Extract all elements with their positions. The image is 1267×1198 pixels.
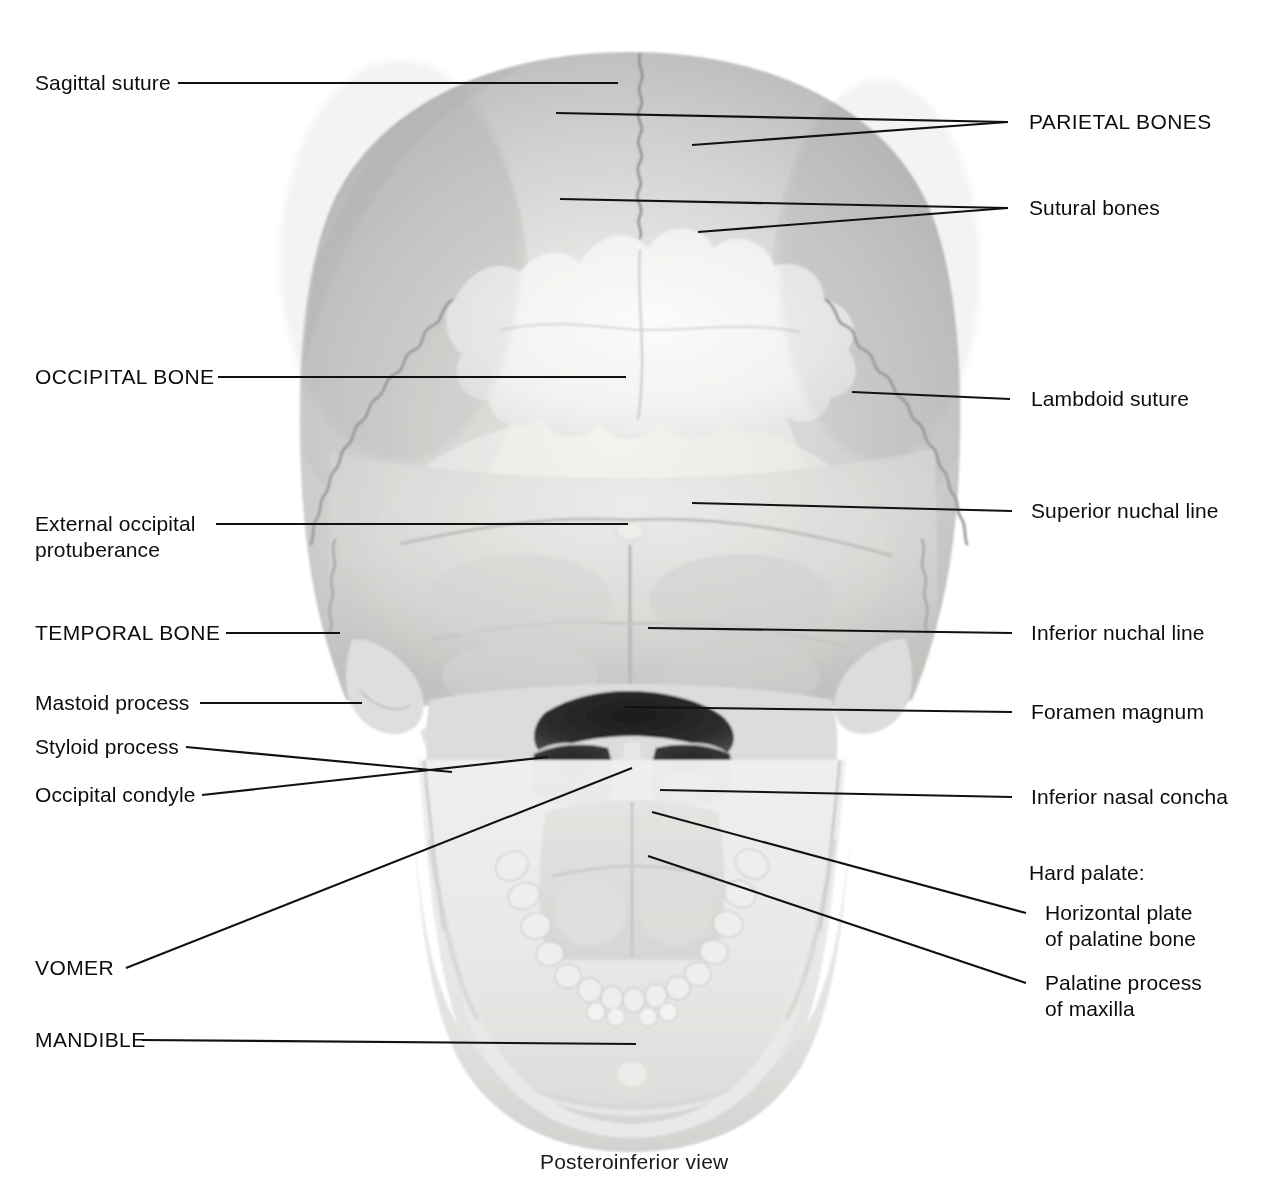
label-inferior-nasal-concha: Inferior nasal concha [1031,784,1228,810]
label-external-occipital-protuberance-line2: protuberance [35,537,160,563]
label-horizontal-plate-line1: Horizontal plate [1045,900,1193,926]
leader-parietal-bones-b [692,122,1008,145]
label-external-occipital-protuberance-line1: External occipital [35,511,196,537]
leader-occipital-condyle [202,757,548,795]
leader-vomer [126,768,632,968]
leader-mandible [142,1040,636,1044]
label-temporal-bone: TEMPORAL BONE [35,620,220,646]
label-vomer: VOMER [35,955,114,981]
leader-horizontal-plate [652,812,1026,913]
label-lambdoid-suture: Lambdoid suture [1031,386,1189,412]
leader-lambdoid-suture [852,392,1010,399]
label-occipital-bone: OCCIPITAL BONE [35,364,214,390]
label-occipital-condyle: Occipital condyle [35,782,195,808]
leader-parietal-bones-a [556,113,1008,122]
leader-sutural-bones-b [698,208,1008,232]
label-mastoid-process: Mastoid process [35,690,189,716]
leader-inferior-nuchal-line [648,628,1012,633]
label-superior-nuchal-line: Superior nuchal line [1031,498,1219,524]
label-sutural-bones: Sutural bones [1029,195,1160,221]
label-horizontal-plate-line2: of palatine bone [1045,926,1196,952]
leader-foramen-magnum [624,707,1012,712]
label-mandible: MANDIBLE [35,1027,146,1053]
label-sagittal-suture: Sagittal suture [35,70,171,96]
label-palatine-process-line2: of maxilla [1045,996,1135,1022]
label-hard-palate-heading: Hard palate: [1029,860,1145,886]
label-inferior-nuchal-line: Inferior nuchal line [1031,620,1205,646]
label-foramen-magnum: Foramen magnum [1031,699,1204,725]
leader-superior-nuchal-line [692,503,1012,511]
leader-inferior-nasal-concha [660,790,1012,797]
label-styloid-process: Styloid process [35,734,179,760]
leader-styloid-process [186,747,452,772]
label-palatine-process-line1: Palatine process [1045,970,1202,996]
anatomy-figure: Sagittal suture OCCIPITAL BONE External … [0,0,1267,1198]
leader-palatine-process [648,856,1026,983]
leader-sutural-bones-a [560,199,1008,208]
label-parietal-bones: PARIETAL BONES [1029,109,1212,135]
figure-caption: Posteroinferior view [540,1150,728,1174]
